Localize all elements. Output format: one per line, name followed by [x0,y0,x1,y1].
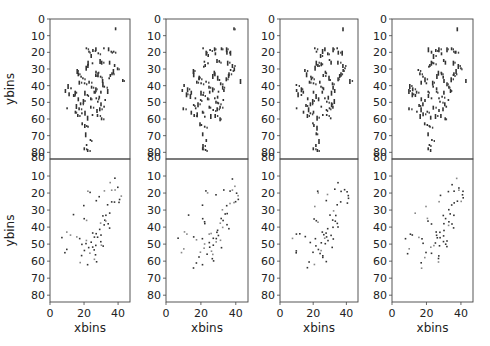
y-tick-label: 10 [147,30,161,43]
y-tick-label: 60 [261,255,275,268]
y-tick-label: 60 [261,113,275,126]
panel-r0-c3 [389,19,473,159]
y-tick-label: 60 [147,113,161,126]
y-tick-label: 60 [147,255,161,268]
y-tick-label: 20 [261,187,275,200]
y-tick-label: 60 [31,255,45,268]
x-tick-label: 20 [194,307,208,320]
y-tick-label: 80 [373,289,387,302]
y-tick-label: 30 [373,63,387,76]
panel-r1-c1 [163,159,248,305]
y-tick-label: 10 [373,30,387,43]
scatter-panels-grid: 0102030405060708080102030405060708002040… [0,0,490,346]
y-tick-label: 10 [147,170,161,183]
x-tick-label: 20 [306,307,320,320]
y-tick-label: 40 [261,80,275,93]
panel-r1-c2 [277,159,358,305]
svg-text:80: 80 [147,151,161,164]
x-tick-label: 20 [77,307,91,320]
y-tick-label: 30 [373,204,387,217]
svg-text:80: 80 [31,151,45,164]
y-tick-label: 50 [31,238,45,251]
y-tick-label: 80 [147,289,161,302]
y-tick-label: 70 [31,272,45,285]
y-tick-label: 30 [147,204,161,217]
y-tick-label: 40 [147,80,161,93]
panel-r0-c0 [47,19,130,159]
y-tick-label: 50 [147,96,161,109]
y-tick-label: 80 [261,289,275,302]
y-tick-label: 60 [373,255,387,268]
x-tick-label: 40 [454,307,468,320]
y-tick-label: 60 [373,113,387,126]
svg-text:80: 80 [373,151,387,164]
y-tick-label: 40 [373,80,387,93]
y-tick-label: 20 [147,187,161,200]
x-axis-label: xbins [417,321,449,335]
y-tick-label: 70 [261,130,275,143]
y-tick-label: 20 [31,46,45,59]
y-axis-label: ybins [3,73,17,105]
y-tick-label: 0 [380,13,387,26]
y-tick-label: 40 [31,221,45,234]
y-tick-label: 50 [147,238,161,251]
y-tick-label: 60 [31,113,45,126]
y-tick-label: 50 [373,96,387,109]
x-axis-label: xbins [191,321,223,335]
y-tick-label: 70 [261,272,275,285]
y-tick-label: 20 [31,187,45,200]
y-tick-label: 20 [373,187,387,200]
y-tick-label: 80 [31,289,45,302]
panel-r1-c0 [47,159,130,305]
y-tick-label: 40 [31,80,45,93]
x-tick-label: 0 [389,307,396,320]
y-tick-label: 70 [373,130,387,143]
y-tick-label: 70 [147,130,161,143]
y-tick-label: 30 [147,63,161,76]
y-axis-label: ybins [3,215,17,247]
y-tick-label: 70 [31,130,45,143]
panel-r0-c1 [163,19,248,159]
y-tick-label: 0 [38,13,45,26]
y-tick-label: 50 [373,238,387,251]
x-axis-label: xbins [303,321,335,335]
panel-r1-c3 [389,159,473,305]
y-tick-label: 10 [373,170,387,183]
x-tick-label: 40 [229,307,243,320]
svg-text:80: 80 [261,151,275,164]
y-tick-label: 40 [147,221,161,234]
x-tick-label: 40 [339,307,353,320]
y-tick-label: 40 [261,221,275,234]
y-tick-label: 10 [261,30,275,43]
y-tick-label: 20 [261,46,275,59]
y-tick-label: 20 [147,46,161,59]
x-tick-label: 0 [47,307,54,320]
y-tick-label: 70 [147,272,161,285]
y-tick-label: 30 [31,63,45,76]
y-tick-label: 70 [373,272,387,285]
y-tick-label: 30 [261,63,275,76]
figure: 0102030405060708080102030405060708002040… [0,0,490,346]
y-tick-label: 30 [261,204,275,217]
y-tick-label: 10 [261,170,275,183]
x-tick-label: 0 [277,307,284,320]
x-tick-label: 0 [163,307,170,320]
y-tick-label: 50 [31,96,45,109]
y-tick-label: 10 [31,170,45,183]
y-tick-label: 40 [373,221,387,234]
y-tick-label: 50 [261,96,275,109]
y-tick-label: 10 [31,30,45,43]
y-tick-label: 50 [261,238,275,251]
y-tick-label: 0 [154,13,161,26]
y-tick-label: 0 [268,13,275,26]
x-axis-label: xbins [74,321,106,335]
y-tick-label: 20 [373,46,387,59]
x-tick-label: 20 [419,307,433,320]
x-tick-label: 40 [111,307,125,320]
y-tick-label: 30 [31,204,45,217]
panel-r0-c2 [277,19,358,159]
